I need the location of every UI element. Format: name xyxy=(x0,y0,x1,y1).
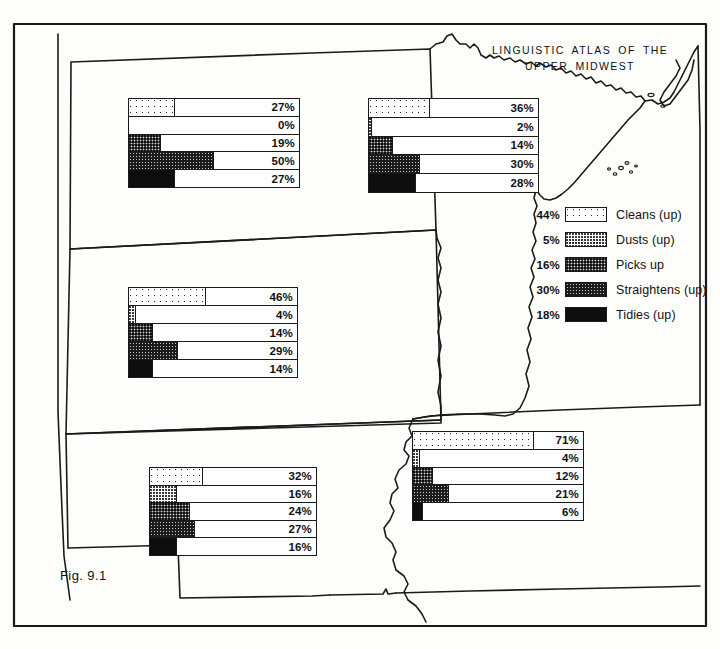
figure-number-label: Fig. 9.1 xyxy=(60,568,107,583)
border-nebraska-north-east xyxy=(330,589,396,595)
bar-row: 12% xyxy=(413,468,583,486)
swatch-cleans-icon xyxy=(565,207,607,222)
bar-fill-3 xyxy=(369,155,420,173)
legend-label-straightens: Straightens (up) xyxy=(607,283,707,297)
bar-fill-2 xyxy=(413,468,433,485)
bar-fill-3 xyxy=(129,342,178,359)
border-nebraska-west xyxy=(66,434,68,548)
panel-nebraska: 32%16%24%27%16% xyxy=(149,467,317,556)
legend-pct-cleans: 44% xyxy=(524,209,565,221)
legend-row-tidies: 18% Tidies (up) xyxy=(524,302,710,327)
swatch-tidies-icon xyxy=(565,307,607,322)
bar-row: 4% xyxy=(413,450,583,468)
bar-row: 2% xyxy=(369,118,538,137)
bar-value-label: 27% xyxy=(271,173,295,185)
swatch-straightens-icon xyxy=(565,282,607,297)
lake-superior-south-shore xyxy=(536,101,645,200)
bar-value-label: 36% xyxy=(510,102,534,114)
bar-fill-0 xyxy=(129,288,206,305)
bar-row: 21% xyxy=(413,485,583,503)
apostle-islands xyxy=(608,162,638,176)
border-iowa-south xyxy=(396,586,700,593)
bar-value-label: 14% xyxy=(510,139,534,151)
bar-fill-2 xyxy=(369,137,393,155)
bar-row: 4% xyxy=(129,306,297,324)
bar-value-label: 28% xyxy=(510,177,534,189)
bar-value-label: 16% xyxy=(288,541,312,553)
border-minnesota-east xyxy=(413,190,537,419)
map-title-line2: UPPER MIDWEST xyxy=(470,58,690,74)
bar-value-label: 14% xyxy=(269,363,293,375)
bar-value-label: 19% xyxy=(271,137,295,149)
map-title: LINGUISTIC ATLAS OF THE UPPER MIDWEST xyxy=(470,42,690,74)
bar-fill-4 xyxy=(413,503,423,520)
legend-label-tidies: Tidies (up) xyxy=(607,308,676,322)
bar-row: 24% xyxy=(150,503,316,521)
panel-south-dakota: 46%4%14%29%14% xyxy=(128,287,298,378)
bar-row: 27% xyxy=(129,99,299,117)
bar-row: 71% xyxy=(413,432,583,450)
bar-value-label: 29% xyxy=(269,345,293,357)
bar-fill-3 xyxy=(413,485,449,502)
bar-value-label: 0% xyxy=(278,119,295,131)
bar-value-label: 4% xyxy=(562,452,579,464)
bar-row: 14% xyxy=(129,360,297,377)
map-title-line1: LINGUISTIC ATLAS OF THE xyxy=(470,42,690,58)
legend-row-dusts: 5% Dusts (up) xyxy=(524,227,710,252)
panel-iowa: 71%4%12%21%6% xyxy=(412,431,584,521)
bar-fill-0 xyxy=(150,468,203,485)
legend-label-picks: Picks up xyxy=(607,258,664,272)
bar-row: 6% xyxy=(413,503,583,520)
panel-minnesota: 36%2%14%30%28% xyxy=(368,98,539,193)
legend-pct-dusts: 5% xyxy=(524,234,565,246)
swatch-picks-icon xyxy=(565,257,607,272)
bar-row: 14% xyxy=(369,137,538,156)
bar-value-label: 21% xyxy=(555,488,579,500)
legend-row-cleans: 44% Cleans (up) xyxy=(524,202,710,227)
bar-value-label: 24% xyxy=(288,505,312,517)
swatch-dusts-icon xyxy=(565,232,607,247)
border-iowa xyxy=(413,405,700,419)
bar-fill-1 xyxy=(150,486,177,503)
bar-row: 29% xyxy=(129,342,297,360)
bar-fill-3 xyxy=(150,521,195,538)
bar-row: 28% xyxy=(369,174,538,192)
bar-fill-4 xyxy=(129,170,175,187)
bar-value-label: 14% xyxy=(269,327,293,339)
panel-north-dakota: 27%0%19%50%27% xyxy=(128,98,300,188)
bar-fill-1 xyxy=(413,450,420,467)
bar-value-label: 12% xyxy=(555,470,579,482)
bar-row: 36% xyxy=(369,99,538,118)
bar-value-label: 6% xyxy=(562,506,579,518)
legend-row-straightens: 30% Straightens (up) xyxy=(524,277,710,302)
bar-value-label: 4% xyxy=(276,309,293,321)
legend-label-cleans: Cleans (up) xyxy=(607,208,682,222)
bar-row: 46% xyxy=(129,288,297,306)
map-legend: 44% Cleans (up) 5% Dusts (up) 16% Picks … xyxy=(524,202,710,327)
legend-row-picks: 16% Picks up xyxy=(524,252,710,277)
bar-row: 16% xyxy=(150,486,316,504)
bar-value-label: 32% xyxy=(288,470,312,482)
bar-value-label: 27% xyxy=(271,101,295,113)
bar-row: 30% xyxy=(369,155,538,174)
bar-value-label: 46% xyxy=(269,291,293,303)
bar-row: 14% xyxy=(129,324,297,342)
bar-row: 50% xyxy=(129,152,299,170)
legend-pct-tidies: 18% xyxy=(524,309,565,321)
bar-fill-0 xyxy=(369,99,430,117)
bar-value-label: 71% xyxy=(555,434,579,446)
bar-row: 19% xyxy=(129,135,299,153)
bar-value-label: 27% xyxy=(288,523,312,535)
bar-row: 32% xyxy=(150,468,316,486)
bar-row: 0% xyxy=(129,117,299,135)
bar-fill-2 xyxy=(129,135,161,152)
bar-fill-4 xyxy=(129,360,153,377)
bar-row: 27% xyxy=(129,170,299,187)
bar-row: 16% xyxy=(150,538,316,555)
bar-fill-3 xyxy=(129,152,214,169)
bar-fill-2 xyxy=(129,324,153,341)
bar-fill-4 xyxy=(369,174,416,192)
legend-pct-picks: 16% xyxy=(524,259,565,271)
bar-fill-2 xyxy=(150,503,190,520)
bar-fill-1 xyxy=(129,306,136,323)
